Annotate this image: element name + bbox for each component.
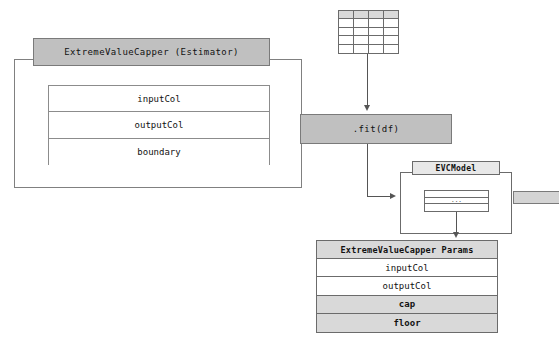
model-inner-box: ... [424,190,489,212]
model-output-tail-bar [513,191,559,204]
dataframe-cell [369,11,384,18]
connector-dataframe-to-fit [367,54,368,106]
model-inner-row [425,204,488,211]
dataframe-cell [369,36,384,43]
estimator-field-label: boundary [137,147,180,157]
model-header-label: EVCModel [436,164,477,173]
params-table-header: ExtremeValueCapper Params [317,241,497,259]
dataframe-cell [384,45,398,53]
estimator-header-label: ExtremeValueCapper (Estimator) [64,47,239,57]
dataframe-cell [354,28,369,35]
params-table-row: floor [317,314,497,332]
model-header-bar: EVCModel [412,161,500,175]
estimator-header-bar: ExtremeValueCapper (Estimator) [33,38,270,66]
params-row-label: floor [393,318,420,328]
dataframe-cell [384,11,398,18]
dataframe-cell [339,28,354,35]
model-inner-ellipsis: ... [451,197,462,203]
dataframe-cell [354,11,369,18]
params-table: ExtremeValueCapper Params inputCol outpu… [316,240,498,333]
dataframe-cell [384,19,398,26]
fit-call-label: .fit(df) [353,124,400,134]
arrowhead-fit-to-model [390,193,396,199]
params-row-label: inputCol [385,263,428,273]
params-row-label: cap [399,299,415,309]
estimator-field-row: boundary [49,139,269,165]
params-row-label: outputCol [383,281,432,291]
dataframe-row [339,45,398,53]
params-table-row: cap [317,296,497,314]
dataframe-row [339,36,398,44]
dataframe-cell [369,19,384,26]
estimator-fields-box: inputCol outputCol boundary [48,85,270,165]
connector-model-to-params [456,212,457,233]
diagram-canvas: ExtremeValueCapper (Estimator) inputCol … [0,0,559,349]
model-inner-row: ... [425,198,488,205]
dataframe-table-icon [338,10,399,54]
dataframe-cell [369,45,384,53]
connector-fit-to-model-horizontal [367,196,390,197]
arrowhead-dataframe-to-fit [364,105,370,111]
dataframe-row [339,28,398,36]
params-table-header-label: ExtremeValueCapper Params [341,245,474,255]
dataframe-cell [339,36,354,43]
dataframe-cell [339,11,354,18]
dataframe-cell [369,28,384,35]
params-table-row: inputCol [317,259,497,277]
params-table-row: outputCol [317,277,497,295]
arrowhead-model-to-params [453,232,459,238]
estimator-field-label: inputCol [137,94,180,104]
dataframe-cell [384,36,398,43]
estimator-field-row: outputCol [49,112,269,138]
dataframe-cell [384,28,398,35]
dataframe-cell [339,45,354,53]
dataframe-row [339,19,398,27]
estimator-field-label: outputCol [135,120,184,130]
dataframe-cell [354,19,369,26]
dataframe-cell [354,36,369,43]
dataframe-cell [339,19,354,26]
dataframe-cell [354,45,369,53]
connector-fit-to-model-vertical [367,144,368,197]
dataframe-header-row [339,11,398,19]
fit-call-bar: .fit(df) [300,114,452,144]
estimator-field-row: inputCol [49,86,269,112]
